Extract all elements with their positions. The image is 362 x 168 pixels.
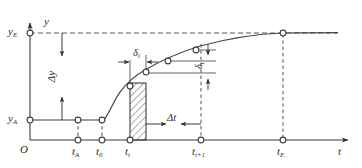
marker-axis-ti1 — [198, 137, 204, 143]
delta-i-label: δi — [133, 48, 140, 59]
origin-label: O — [20, 144, 28, 155]
diagram-svg — [0, 0, 362, 168]
droplines — [78, 34, 283, 138]
delta-t-label: Δt — [167, 113, 176, 124]
marker-curve-c — [193, 47, 199, 53]
data-point-markers — [27, 30, 286, 143]
marker-axis-tA — [75, 137, 81, 143]
x-axis-label: t — [338, 146, 341, 157]
marker-curve-a — [143, 69, 149, 75]
marker-tA-level — [75, 117, 81, 123]
x-tick-label-ti-plus-1: ti+1 — [192, 146, 205, 159]
marker-curve-b — [165, 58, 171, 64]
delta-y-label: Δy — [46, 71, 57, 82]
marker-axis-t0 — [99, 137, 105, 143]
figure-canvas: y t O yE yA tA t0 ti ti+1 tE Δy Δt δi δi — [0, 0, 362, 168]
tie-lines — [146, 50, 216, 73]
y-axis-label: y — [44, 16, 49, 27]
y-tick-label-yA: yA — [8, 113, 17, 126]
hatched-sample-rect — [130, 83, 146, 140]
x-tick-label-tA: tA — [72, 146, 79, 159]
x-tick-label-tE: tE — [277, 146, 284, 159]
marker-axis-tE — [280, 137, 286, 143]
y-tick-label-yE: yE — [8, 26, 17, 39]
marker-t0-level — [99, 117, 105, 123]
marker-yA-axis — [27, 117, 33, 123]
x-tick-label-ti: ti — [125, 146, 130, 159]
marker-curve-ti — [127, 83, 133, 89]
delta-i-vertical-label: δi — [194, 62, 205, 69]
marker-axis-ti — [127, 137, 133, 143]
marker-yE-axis — [27, 30, 33, 36]
marker-curve-tE — [280, 30, 286, 36]
x-tick-label-t0: t0 — [96, 146, 102, 159]
